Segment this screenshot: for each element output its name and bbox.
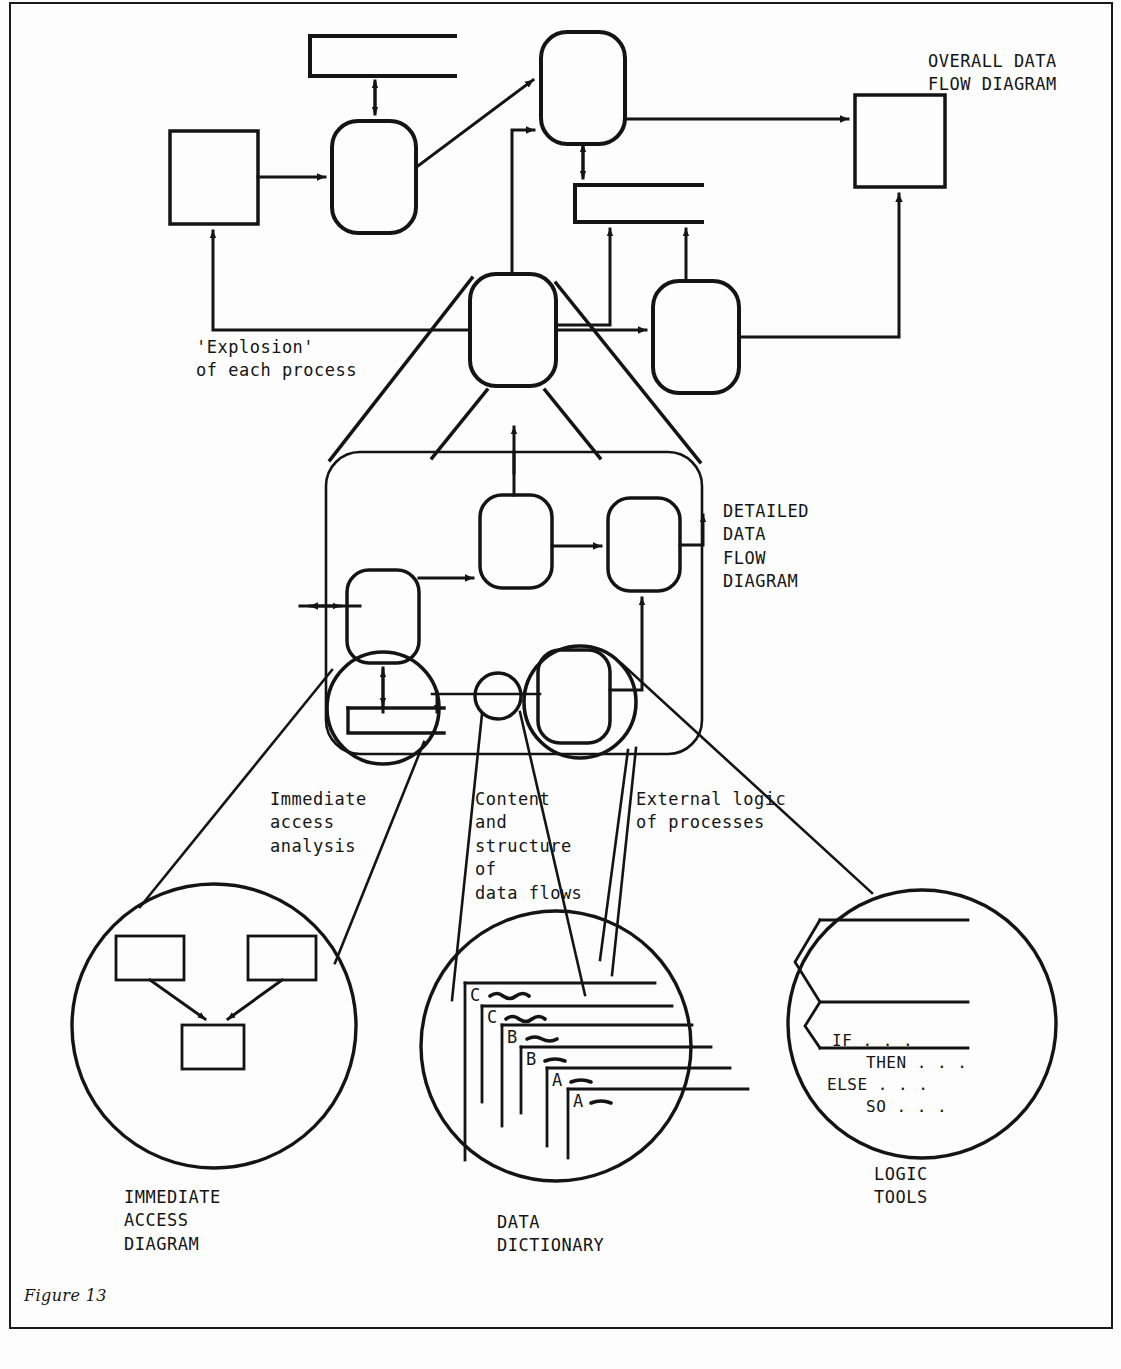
diagram-artwork <box>0 0 1121 1369</box>
top-process-d <box>653 281 739 393</box>
dd-cards <box>465 983 748 1160</box>
figure-page: OVERALL DATA FLOW DIAGRAM 'Explosion' of… <box>0 0 1121 1369</box>
label-logic-tools: LOGIC TOOLS <box>874 1163 928 1210</box>
label-external-logic-of-processes: External logic of processes <box>636 788 786 835</box>
dd-card-letter: A <box>573 1090 584 1113</box>
flow-feedback-to-entity <box>213 231 470 330</box>
magnifier-data-dictionary <box>475 673 521 719</box>
logic-line-if: IF . . . <box>832 1030 913 1052</box>
logic-bracket <box>795 920 968 1048</box>
logic-line-else: ELSE . . . <box>827 1074 928 1096</box>
logic-line-so: SO . . . <box>866 1096 947 1118</box>
flow-process-a-to-b <box>418 80 533 166</box>
iad-box-bottom <box>182 1025 244 1069</box>
iad-box-top-left <box>116 936 184 980</box>
flow-process-d-to-overall-box <box>739 194 899 337</box>
label-data-dictionary: DATA DICTIONARY <box>497 1211 604 1258</box>
flow-exploded-to-store <box>556 229 610 325</box>
figure-caption: Figure 13 <box>24 1286 107 1305</box>
iad-arrow-right <box>228 980 282 1019</box>
iad-box-top-right <box>248 936 316 980</box>
logic-line-then: THEN . . . <box>866 1052 967 1074</box>
top-process-exploded <box>470 274 556 386</box>
dd-card-letter: A <box>552 1069 563 1092</box>
top-datastore-upper <box>310 36 455 76</box>
detailed-process-center <box>480 495 552 588</box>
dd-card-letter: C <box>470 984 481 1007</box>
detailed-process-bottom <box>538 650 610 743</box>
label-overall-data-flow-diagram: OVERALL DATA FLOW DIAGRAM <box>928 50 1057 97</box>
flow-detailed-right-out <box>680 515 703 545</box>
flow-exploded-to-process-b <box>512 130 534 274</box>
dd-card-letter: B <box>507 1026 518 1049</box>
top-process-a <box>332 121 416 233</box>
detailed-process-left <box>347 570 419 663</box>
label-immediate-access-analysis: Immediate access analysis <box>270 788 367 858</box>
magnifier-logic-tools <box>524 646 636 758</box>
top-overall-dfd-box <box>855 95 945 187</box>
dd-card-letter: B <box>526 1048 537 1071</box>
label-detailed-data-flow-diagram: DETAILED DATA FLOW DIAGRAM <box>723 500 809 594</box>
top-external-entity-left <box>170 131 258 224</box>
label-explosion-of-each-process: 'Explosion' of each process <box>196 336 357 383</box>
label-immediate-access-diagram: IMMEDIATE ACCESS DIAGRAM <box>124 1186 221 1256</box>
detailed-process-right <box>608 498 680 591</box>
iad-arrow-left <box>150 980 205 1019</box>
top-process-b <box>541 32 625 144</box>
detailed-datastore <box>348 708 444 733</box>
dd-card-letter: C <box>487 1006 498 1029</box>
top-datastore-lower <box>575 185 702 222</box>
label-content-and-structure-of-data-flows: Content and structure of data flows <box>475 788 582 905</box>
